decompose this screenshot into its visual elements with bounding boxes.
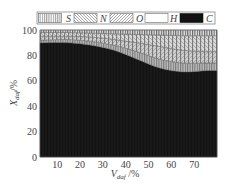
legend-item-h: H — [145, 13, 178, 24]
legend-swatch-c — [180, 14, 203, 23]
stacked-area-chart: S N O H C 020406080100 10203040506070 Vd… — [0, 0, 225, 189]
y-axis-label: Xdaf/% — [8, 80, 21, 107]
legend-swatch-h — [145, 14, 168, 23]
legend-label-n: N — [99, 13, 108, 24]
y-tick-label: 100 — [22, 25, 37, 36]
y-tick-label: 80 — [27, 50, 37, 61]
x-tick-label: 20 — [75, 159, 85, 170]
x-axis-label: Vdaf /% — [111, 168, 140, 181]
legend-item-c: C — [180, 13, 213, 24]
legend: S N O H C — [37, 12, 215, 24]
legend-swatch-n — [74, 14, 97, 23]
y-tick-label: 20 — [27, 126, 37, 137]
legend-swatch-s — [39, 14, 62, 23]
x-tick-label: 60 — [166, 159, 176, 170]
y-tick-label: 40 — [27, 101, 37, 112]
legend-label-s: S — [66, 13, 71, 24]
legend-item-s: S — [39, 13, 72, 24]
legend-label-c: C — [206, 13, 213, 24]
x-tick-label: 50 — [143, 159, 153, 170]
x-tick-label: 10 — [52, 159, 62, 170]
legend-item-o: O — [110, 13, 143, 24]
y-axis: 020406080100 — [22, 25, 37, 163]
y-tick-label: 60 — [27, 75, 37, 86]
legend-item-n: N — [74, 13, 108, 24]
x-tick-label: 30 — [98, 159, 108, 170]
x-tick-label: 70 — [189, 159, 199, 170]
legend-label-h: H — [169, 13, 178, 24]
y-tick-label: 0 — [32, 152, 37, 163]
legend-label-o: O — [136, 13, 143, 24]
plot-area — [40, 30, 217, 157]
legend-swatch-o — [110, 14, 133, 23]
